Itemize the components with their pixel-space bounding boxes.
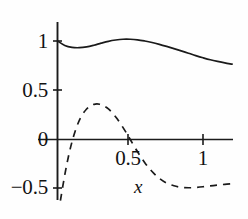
chart-figure: 1 0.5 0 −0.5 0.5 1 x xyxy=(0,0,248,219)
x-tick-label-1: 1 xyxy=(187,148,219,169)
y-tick-label-1: 1 xyxy=(8,31,48,52)
y-tick-label-0: 0 xyxy=(8,129,48,150)
y-tick-label-0p5: 0.5 xyxy=(0,80,48,101)
x-tick-label-0p5: 0.5 xyxy=(104,148,152,169)
x-axis-title: x xyxy=(134,177,142,196)
series-solid-curve xyxy=(58,39,233,64)
y-tick-label-minus-0p5: −0.5 xyxy=(0,177,48,198)
axes-group xyxy=(38,22,233,200)
data-series-group xyxy=(58,39,233,200)
